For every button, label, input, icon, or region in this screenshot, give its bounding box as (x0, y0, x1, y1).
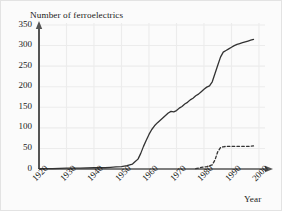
y-tick-label: 200 (8, 80, 32, 90)
y-tick-label: 250 (8, 60, 32, 70)
y-tick-label: 150 (8, 101, 32, 111)
data-series (39, 39, 254, 168)
y-tick-label: 100 (8, 121, 32, 131)
chart-title: Number of ferroelectrics (30, 10, 123, 20)
series-line-0 (39, 39, 254, 168)
y-tick-label: 350 (8, 19, 32, 29)
y-tick-label: 50 (8, 142, 32, 152)
plot-area (1, 1, 282, 211)
gridlines (39, 23, 265, 169)
y-tick-label: 0 (8, 163, 32, 173)
chart-figure: Number of ferroelectrics Year 0501001502… (0, 0, 282, 211)
x-axis-title: Year (244, 194, 261, 204)
y-tick-label: 300 (8, 39, 32, 49)
chart-canvas (1, 1, 282, 211)
